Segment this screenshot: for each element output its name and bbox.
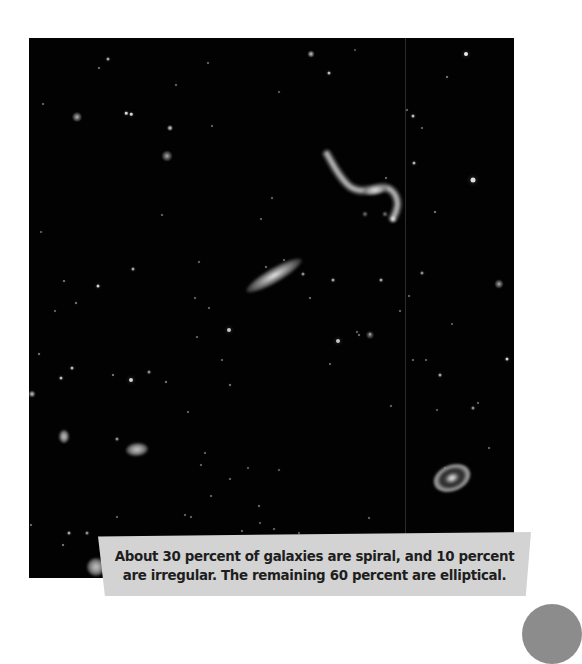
star (229, 478, 231, 480)
star (97, 285, 100, 288)
star (309, 297, 311, 299)
star (200, 464, 202, 466)
star (107, 58, 110, 61)
star (196, 336, 198, 338)
star (175, 84, 177, 86)
star (68, 532, 71, 535)
star (38, 353, 40, 355)
ring-galaxy (430, 459, 475, 497)
star (148, 371, 151, 374)
star (125, 112, 128, 115)
star (259, 522, 261, 524)
star (302, 273, 305, 276)
star (86, 532, 89, 535)
star (439, 374, 442, 377)
star (356, 331, 358, 333)
star (60, 377, 63, 380)
star (112, 374, 114, 376)
star (62, 544, 64, 546)
star (464, 52, 468, 56)
page-corner-tab (522, 604, 582, 664)
star (488, 447, 490, 449)
star (116, 438, 119, 441)
star (129, 378, 133, 382)
star (71, 367, 74, 370)
star (258, 505, 260, 507)
star (298, 532, 300, 534)
star (42, 103, 44, 105)
star (98, 67, 100, 69)
caption-box: About 30 percent of galaxies are spiral,… (98, 532, 531, 596)
caption-line-1: About 30 percent of galaxies are spiral,… (115, 547, 514, 566)
star (390, 405, 392, 407)
star (495, 280, 504, 289)
star (167, 125, 173, 131)
star (132, 268, 135, 271)
star (446, 76, 448, 78)
star (472, 407, 475, 410)
star (271, 197, 273, 199)
star (278, 91, 280, 93)
star (130, 113, 133, 116)
image-seam-line (405, 38, 406, 578)
star (63, 280, 65, 282)
star (29, 391, 36, 398)
star (184, 514, 186, 516)
star (165, 381, 167, 383)
star (241, 530, 243, 532)
star (434, 211, 436, 213)
star (54, 310, 56, 312)
star (260, 218, 262, 220)
star (358, 334, 360, 336)
star (421, 127, 423, 129)
star (354, 49, 356, 51)
irregular-tailed-galaxy (319, 148, 409, 233)
star (204, 452, 206, 454)
caption-line-2: are irregular. The remaining 60 percent … (123, 566, 506, 585)
star (413, 162, 416, 165)
star (273, 528, 275, 530)
star (477, 402, 479, 404)
star (75, 302, 77, 304)
star (210, 495, 212, 497)
star (247, 467, 249, 469)
star (329, 363, 331, 365)
star (278, 469, 280, 471)
star (116, 516, 118, 518)
small-elliptical (125, 442, 148, 457)
star (328, 72, 331, 75)
star (451, 323, 453, 325)
star (399, 310, 401, 312)
star (198, 261, 200, 263)
star (380, 279, 383, 282)
star (208, 307, 210, 309)
star (421, 272, 424, 275)
star (412, 115, 415, 118)
star (194, 297, 196, 299)
star (211, 125, 213, 127)
star (207, 62, 209, 64)
edge-on-spiral (243, 253, 306, 298)
star (412, 359, 414, 361)
star (229, 384, 231, 386)
star (471, 178, 476, 183)
star (368, 517, 370, 519)
star (332, 279, 335, 282)
star (162, 151, 173, 162)
star (406, 109, 408, 111)
star (308, 51, 315, 58)
star (408, 295, 410, 297)
star (425, 359, 427, 361)
star (506, 358, 509, 361)
star (436, 409, 438, 411)
star (265, 266, 267, 268)
star (30, 524, 32, 526)
star (72, 112, 82, 122)
star (161, 214, 163, 216)
left-edge-galaxy (59, 430, 69, 443)
star (227, 328, 231, 332)
star (190, 516, 192, 518)
star (221, 359, 223, 361)
star (40, 231, 42, 233)
galaxy-photo (29, 38, 514, 578)
